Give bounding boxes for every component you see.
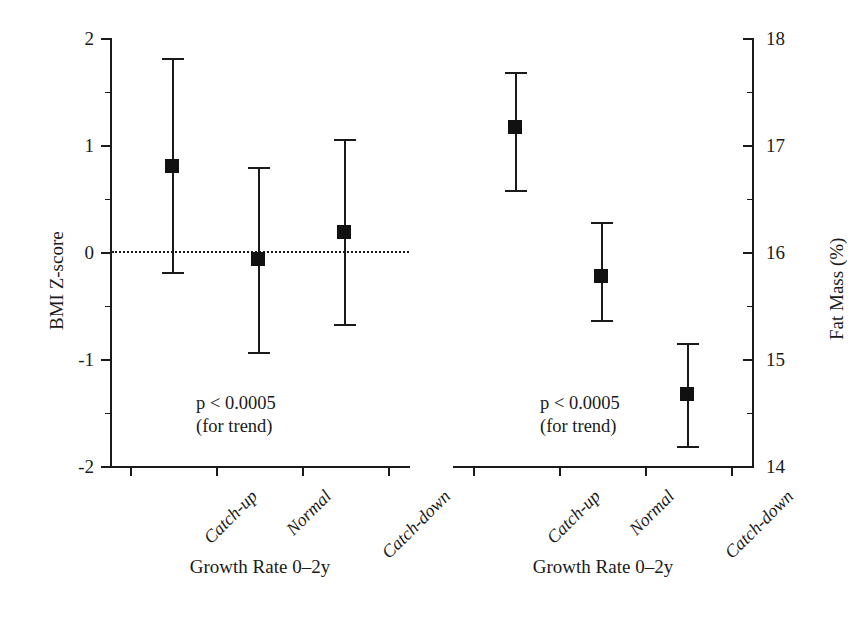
- right-ytick-major: [743, 252, 752, 254]
- errorbar-cap-upper: [505, 72, 527, 74]
- right-ytick-minor: [747, 199, 752, 201]
- right-xtick: [731, 467, 733, 476]
- right-ytick-label: 17: [766, 136, 806, 155]
- errorbar-cap-lower: [505, 190, 527, 192]
- right-ytick-label: 16: [766, 243, 806, 262]
- right-y-axis-line: [752, 38, 754, 468]
- figure-canvas: 2 1 0 -1 -2 BMI Z-score Catch-up Normal …: [0, 0, 863, 617]
- right-category-label-catch-up: Catch-up: [543, 486, 605, 548]
- right-ytick-major: [743, 359, 752, 361]
- right-x-axis-line: [453, 466, 753, 468]
- errorbar-point-marker: [680, 387, 694, 401]
- right-ytick-label: 18: [766, 29, 806, 48]
- right-ytick-label: 14: [766, 457, 806, 476]
- right-ytick-minor: [747, 92, 752, 94]
- panel-fat-mass: 18 17 16 15 14 Fat Mass (%) Catch-up Nor…: [0, 0, 863, 617]
- right-ytick-major: [743, 145, 752, 147]
- right-pvalue-annotation: p < 0.0005 (for trend): [540, 392, 620, 438]
- right-x-axis-title: Growth Rate 0–2y: [453, 556, 753, 578]
- right-ytick-label: 15: [766, 350, 806, 369]
- right-y-axis-title: Fat Mass (%): [826, 238, 848, 340]
- errorbar-cap-upper: [677, 343, 699, 345]
- errorbar-point-marker: [508, 120, 522, 134]
- right-ytick-minor: [747, 413, 752, 415]
- right-ytick-minor: [747, 306, 752, 308]
- right-category-label-normal: Normal: [625, 486, 679, 540]
- right-ytick-major: [743, 466, 752, 468]
- errorbar-cap-upper: [591, 222, 613, 224]
- errorbar-point-marker: [594, 269, 608, 283]
- right-xtick: [473, 467, 475, 476]
- right-xtick: [559, 467, 561, 476]
- right-xtick: [645, 467, 647, 476]
- right-category-label-catch-down: Catch-down: [721, 486, 798, 563]
- right-ytick-major: [743, 38, 752, 40]
- errorbar-cap-lower: [591, 320, 613, 322]
- errorbar-cap-lower: [677, 446, 699, 448]
